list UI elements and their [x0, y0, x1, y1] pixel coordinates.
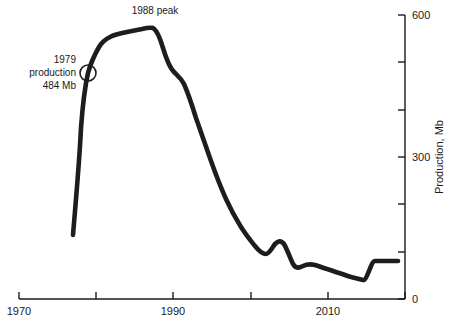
series-group	[73, 28, 398, 280]
y-tick-label-600: 600	[412, 9, 430, 21]
annotation-1979-line1: 1979	[54, 54, 77, 65]
1988-peak-annotation: 1988 peak	[132, 5, 180, 16]
y-axis: 600 300 0 Production, Mb	[398, 9, 445, 305]
annotation-1979-line3: 484 Mb	[43, 80, 77, 91]
y-tick-label-300: 300	[412, 151, 430, 163]
y-tick-label-0: 0	[412, 293, 418, 305]
x-tick-label-2010: 2010	[316, 305, 340, 317]
y-axis-title: Production, Mb	[433, 120, 445, 194]
annotation-1979-line2: production	[29, 67, 76, 78]
production-series-line	[73, 28, 398, 280]
chart-container: 1970 1990 2010 600 300 0 Production, Mb	[0, 0, 451, 322]
x-tick-label-1970: 1970	[7, 305, 31, 317]
x-tick-label-1990: 1990	[161, 305, 185, 317]
x-axis: 1970 1990 2010	[7, 292, 405, 317]
production-line-chart: 1970 1990 2010 600 300 0 Production, Mb	[0, 0, 451, 322]
annotation-1988-peak-label: 1988 peak	[132, 5, 180, 16]
